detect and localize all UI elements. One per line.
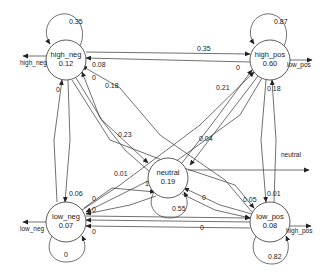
node-high_neg: high_neg 0.12 [46, 40, 86, 80]
node-low_pos: low_pos 0.08 [250, 202, 290, 242]
edge-high_neg-to-high_pos [86, 52, 250, 54]
edge-label: 0.18 [267, 85, 281, 92]
output-arrows [23, 56, 312, 226]
node-low_neg: low_neg 0.07 [46, 202, 86, 242]
node-label: high_neg [51, 50, 82, 59]
edge-label: 0.08 [92, 61, 106, 68]
output-label-low_neg: low_neg [20, 225, 45, 233]
edge-low_pos-to-high_pos [272, 80, 276, 202]
node-value: 0.12 [59, 59, 74, 68]
edge-label: 1 [145, 180, 149, 187]
edge-label: 0 [92, 195, 96, 202]
node-value: 0.60 [263, 59, 278, 68]
node-value: 0.19 [161, 177, 176, 186]
edge-high_pos-to-low_pos [261, 80, 266, 202]
edge-label: 0 [92, 206, 96, 213]
edge-low_pos-to-low_neg [86, 220, 250, 222]
node-label: neutral [157, 168, 180, 177]
edge-label: 0.23 [118, 131, 132, 138]
edge-label: 0 [200, 224, 204, 231]
self-loop-label-low_pos: 0.82 [268, 253, 282, 260]
output-label-high_pos: low_pos [287, 61, 312, 69]
edge-high_neg-to-low_neg [65, 80, 70, 202]
node-label: low_neg [52, 212, 80, 221]
edge-label: 0.18 [105, 82, 119, 89]
edge-label: 0 [236, 64, 240, 71]
edge-label: 0.01 [114, 170, 128, 177]
output-label-high_neg: high_neg [20, 59, 47, 67]
node-label: low_pos [256, 212, 284, 221]
edge-label: 0 [56, 86, 60, 93]
node-value: 0.07 [59, 221, 74, 230]
edge-label: 0.06 [69, 190, 83, 197]
state-transition-diagram: high_neg 0.12 high_pos 0.60 neutral 0.19… [0, 0, 327, 278]
self-loop-label-high_pos: 0.87 [274, 18, 288, 25]
edge-label: 0 [92, 228, 96, 235]
edge-label: 0.35 [197, 45, 211, 52]
edge-label: 0.04 [199, 135, 213, 142]
edge-label: 0 [92, 74, 96, 81]
edge-low_pos-to-low_neg-2 [86, 226, 250, 228]
edge-high_pos-to-high_neg [86, 58, 250, 62]
edge-low_neg-to-high_neg [54, 80, 62, 202]
node-value: 0.08 [263, 221, 278, 230]
output-label-low_pos: high_pos [286, 227, 313, 235]
self-loop-label-neutral: 0.55 [172, 205, 186, 212]
self-loop-label-low_neg: 0 [64, 251, 68, 258]
self-loop-label-high_neg: 0.35 [69, 18, 83, 25]
node-label: high_pos [255, 50, 286, 59]
node-high_pos: high_pos 0.60 [250, 40, 290, 80]
edge-label: 0 [202, 194, 206, 201]
node-neutral: neutral 0.19 [148, 158, 188, 198]
output-label-neutral: neutral [281, 151, 301, 158]
edge-label: 0.05 [243, 196, 257, 203]
edge-label: 0.01 [267, 190, 281, 197]
edge-label: 0.21 [216, 84, 230, 91]
edge-low_pos-to-neutral [184, 188, 252, 214]
